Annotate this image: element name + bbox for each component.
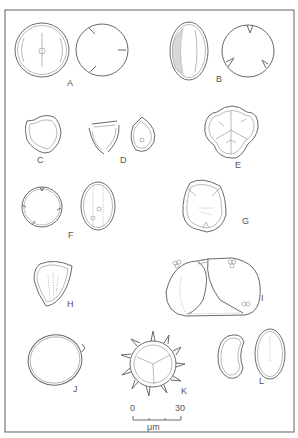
plate-frame [5,10,294,432]
scale-min-label: 0 [130,404,135,413]
grain-l-polar [255,329,285,379]
panel-label-g: G [242,217,249,226]
scale-unit-label: μm [147,423,160,432]
grain-l-equatorial [218,335,244,378]
grain-b-equatorial [170,22,208,80]
panel-label-k: K [181,387,187,396]
panel-label-l: L [259,377,264,386]
panel-label-c: C [37,156,44,165]
grain-i [166,258,260,316]
panel-label-f: F [68,231,74,240]
panel-label-a: A [67,79,73,88]
grain-f-equatorial [81,182,115,230]
grain-a-polar [76,24,128,76]
grain-k-echinate [121,331,185,396]
grain-b-polar [222,25,274,77]
scale-bar [133,416,181,420]
plate-drawing [0,0,298,438]
panel-label-i: I [261,294,264,303]
grain-g [183,180,226,232]
grain-f-polar [22,187,62,227]
grain-j [22,329,87,391]
panel-label-d: D [120,156,127,165]
panel-label-j: J [73,385,78,394]
panel-label-e: E [235,161,241,170]
panel-label-b: B [216,75,222,84]
grain-e-tetrad [205,106,258,158]
grain-d-equatorial [131,117,155,151]
grain-a-equatorial [15,23,69,77]
scale-max-label: 30 [175,404,185,413]
grain-c [26,116,62,153]
grain-d-polar [89,121,119,154]
panel-label-h: H [67,300,74,309]
pollen-plate: A B C D E F G H I J K L 0 30 μm [0,0,298,438]
